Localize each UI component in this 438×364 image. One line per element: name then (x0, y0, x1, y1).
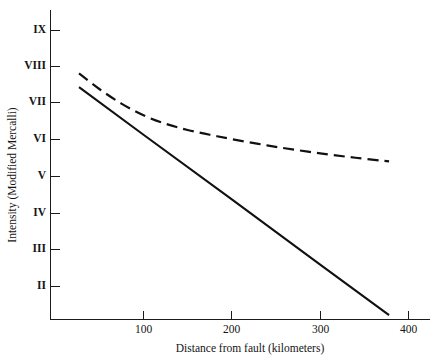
y-tick-label-7: VII (29, 95, 47, 107)
y-tick-label-8: VIII (24, 59, 46, 71)
x-tick-marks (144, 311, 409, 320)
attenuation-chart: IX VIII VII VI V IV III II 100 200 300 4… (0, 0, 438, 364)
y-tick-label-2: II (37, 279, 46, 291)
y-tick-label-9: IX (33, 23, 46, 35)
y-tick-label-6: VI (33, 132, 46, 144)
y-axis-title: Intensity (Modified Mercalli) (6, 107, 19, 243)
x-tick-label-200: 200 (223, 323, 241, 335)
x-tick-label-300: 300 (312, 323, 330, 335)
y-tick-label-3: III (33, 242, 47, 254)
y-tick-label-5: V (38, 169, 47, 181)
x-tick-label-100: 100 (135, 323, 153, 335)
y-tick-label-4: IV (33, 206, 46, 218)
series-line-firm-rock (79, 87, 389, 315)
x-tick-labels: 100 200 300 400 (135, 323, 418, 335)
x-axis-title: Distance from fault (kilometers) (176, 342, 325, 355)
series-line-soft-soil (79, 73, 389, 161)
y-tick-labels: IX VIII VII VI V IV III II (24, 23, 46, 291)
chart-figure: IX VIII VII VI V IV III II 100 200 300 4… (0, 0, 438, 364)
y-tick-marks (51, 31, 61, 287)
x-tick-label-400: 400 (400, 323, 418, 335)
